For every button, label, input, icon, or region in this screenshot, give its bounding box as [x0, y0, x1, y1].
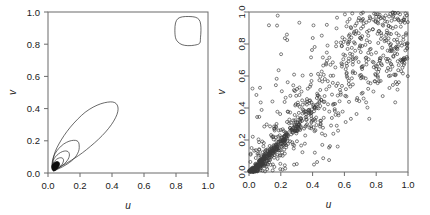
scatter-point — [388, 15, 391, 18]
scatter-point — [381, 23, 384, 26]
scatter-point — [258, 141, 261, 144]
figure-container: 0.00.20.40.60.81.00.00.20.40.60.81.0uv 0… — [0, 0, 430, 215]
scatter-point — [360, 27, 363, 30]
x-axis-title: u — [125, 200, 131, 211]
scatter-point — [288, 118, 291, 121]
scatter-point — [300, 144, 303, 147]
scatter-point — [397, 64, 400, 67]
scatter-point — [277, 69, 280, 72]
scatter-point — [351, 83, 354, 86]
scatter-point — [350, 77, 353, 80]
scatter-point — [396, 88, 399, 91]
scatter-point — [326, 80, 329, 83]
scatter-point — [330, 116, 333, 119]
scatter-point — [275, 77, 278, 80]
scatter-point — [344, 121, 347, 124]
scatter-point — [348, 100, 351, 103]
y-tick-label: 1.0 — [27, 7, 40, 18]
scatter-point — [388, 86, 391, 89]
scatter-point — [323, 78, 326, 81]
scatter-point — [321, 80, 324, 83]
scatter-point — [367, 51, 370, 54]
scatter-point — [395, 32, 398, 35]
scatter-point — [342, 58, 345, 61]
scatter-point — [350, 46, 353, 49]
y-tick-label: 0.2 — [27, 135, 40, 146]
scatter-point — [375, 51, 378, 54]
scatter-point — [341, 110, 344, 113]
scatter-point — [347, 83, 350, 86]
scatter-point — [283, 164, 286, 167]
scatter-point — [390, 19, 393, 22]
scatter-point — [364, 43, 367, 46]
scatter-point — [355, 113, 358, 116]
scatter-point — [393, 38, 396, 41]
scatter-point — [304, 134, 307, 137]
scatter-point — [320, 70, 323, 73]
scatter-point — [283, 152, 286, 155]
scatter-point — [328, 159, 331, 162]
y-tick-label: 0.0 — [27, 168, 40, 179]
y-tick-label: 1.0 — [236, 5, 247, 18]
scatter-point — [400, 44, 403, 47]
scatter-point — [316, 161, 319, 164]
scatter-point — [332, 132, 335, 135]
y-tick-label: 0.4 — [236, 101, 247, 114]
scatter-point — [328, 56, 331, 59]
scatter-point — [325, 51, 328, 54]
scatter-point — [301, 74, 304, 77]
scatter-point — [337, 114, 340, 117]
scatter-point — [311, 37, 314, 40]
scatter-point — [286, 39, 289, 42]
scatter-point — [397, 81, 400, 84]
scatter-point — [260, 108, 263, 111]
scatter-point — [345, 25, 348, 28]
scatter-point — [301, 151, 304, 154]
scatter-points — [248, 11, 409, 173]
scatter-point — [336, 16, 339, 19]
scatter-point — [279, 113, 282, 116]
scatter-point — [349, 117, 352, 120]
scatter-point — [394, 25, 397, 28]
scatter-point — [283, 148, 286, 151]
scatter-point — [368, 117, 371, 120]
scatter-point — [365, 101, 368, 104]
scatter-point — [286, 81, 289, 84]
scatter-point — [324, 134, 327, 137]
scatter-point — [391, 83, 394, 86]
scatter-point — [284, 96, 287, 99]
y-tick-label: 0.0 — [236, 165, 247, 178]
scatter-point — [385, 70, 388, 73]
scatter-point — [297, 111, 300, 114]
scatter-point — [343, 13, 346, 16]
scatter-point — [283, 100, 286, 103]
scatter-point — [348, 18, 351, 21]
scatter-point — [293, 113, 296, 116]
scatter-point — [347, 79, 350, 82]
x-tick-label: 0.2 — [274, 179, 287, 190]
scatter-point — [310, 56, 313, 59]
scatter-point — [401, 66, 404, 69]
scatter-point — [319, 75, 322, 78]
scatter-point — [359, 51, 362, 54]
x-tick-label: 0.4 — [105, 180, 118, 191]
y-tick-label: 0.2 — [236, 133, 247, 146]
scatter-point — [276, 24, 279, 27]
y-tick-label: 0.4 — [27, 103, 40, 114]
scatter-point — [342, 40, 345, 43]
scatter-point — [303, 142, 306, 145]
scatter-point — [256, 116, 259, 119]
scatter-point — [328, 85, 331, 88]
scatter-point — [381, 95, 384, 98]
scatter-point — [300, 90, 303, 93]
scatter-point — [401, 72, 404, 75]
contour-panel: 0.00.20.40.60.81.00.00.20.40.60.81.0uv — [0, 0, 215, 215]
x-tick-label: 0.2 — [73, 180, 86, 191]
scatter-point — [362, 97, 365, 100]
scatter-point — [337, 129, 340, 132]
scatter-point — [344, 88, 347, 91]
scatter-point — [365, 60, 368, 63]
scatter-point — [371, 28, 374, 31]
scatter-point — [311, 49, 314, 52]
scatter-point — [306, 87, 309, 90]
